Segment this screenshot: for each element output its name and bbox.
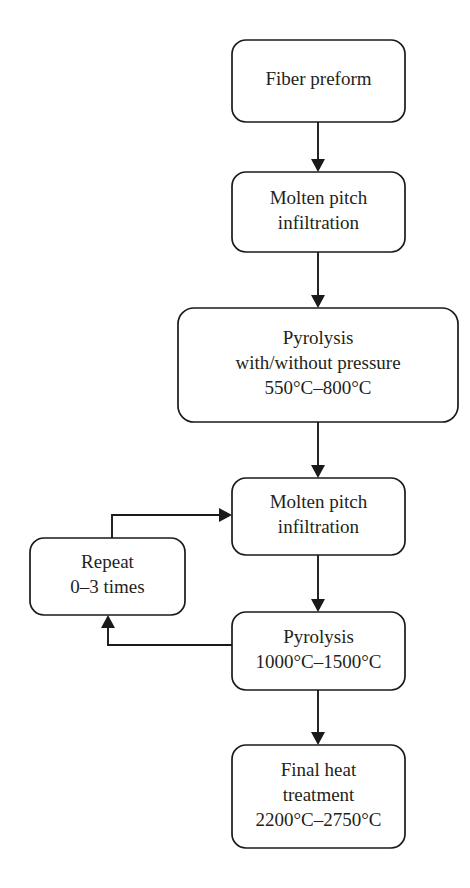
arrow-molten-pitch-1-to-pyrolysis-1-arrowhead-icon: [311, 295, 325, 308]
arrow-pyrolysis-1-to-molten-pitch-2: [311, 422, 325, 478]
arrow-pyrolysis-2-to-repeat-arrowhead-icon: [101, 615, 115, 628]
arrow-fiber-preform-to-molten-pitch-1: [311, 122, 325, 172]
node-fiber-preform-label: Fiber preform: [265, 68, 371, 89]
node-molten-pitch-infiltration-2[interactable]: Molten pitchinfiltration: [232, 478, 405, 555]
arrow-repeat-to-molten-pitch-2: [112, 508, 232, 538]
arrow-molten-pitch-1-to-pyrolysis-1: [311, 252, 325, 308]
arrow-molten-pitch-2-to-pyrolysis-2-arrowhead-icon: [311, 599, 325, 612]
arrow-pyrolysis-2-to-final-heat-treatment: [311, 690, 325, 745]
arrow-pyrolysis-2-to-repeat-line: [108, 621, 232, 645]
node-repeat-loop[interactable]: Repeat0–3 times: [30, 538, 185, 615]
flowchart-diagram: Fiber preformMolten pitchinfiltrationPyr…: [0, 0, 470, 888]
node-pyrolysis-low-temperature[interactable]: Pyrolysiswith/without pressure550°C–800°…: [178, 308, 458, 422]
node-final-heat-treatment[interactable]: Final heattreatment2200°C–2750°C: [232, 745, 405, 848]
node-fiber-preform[interactable]: Fiber preform: [232, 40, 405, 122]
arrow-pyrolysis-2-to-final-heat-treatment-arrowhead-icon: [311, 732, 325, 745]
arrow-molten-pitch-2-to-pyrolysis-2: [311, 555, 325, 612]
flowchart-canvas: Fiber preformMolten pitchinfiltrationPyr…: [0, 0, 470, 888]
arrow-pyrolysis-2-to-repeat: [101, 615, 232, 645]
arrow-fiber-preform-to-molten-pitch-1-arrowhead-icon: [311, 159, 325, 172]
node-molten-pitch-infiltration-1[interactable]: Molten pitchinfiltration: [232, 172, 405, 252]
node-pyrolysis-high-temperature[interactable]: Pyrolysis1000°C–1500°C: [232, 612, 405, 690]
arrow-repeat-to-molten-pitch-2-arrowhead-icon: [219, 508, 232, 522]
arrow-pyrolysis-1-to-molten-pitch-2-arrowhead-icon: [311, 465, 325, 478]
arrow-repeat-to-molten-pitch-2-line: [112, 515, 226, 538]
